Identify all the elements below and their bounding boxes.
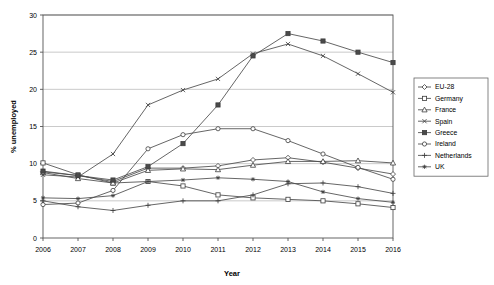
x-tick-label: 2006 [35, 246, 51, 253]
data-point-square-solid [146, 165, 150, 169]
data-point-square-solid [321, 39, 325, 43]
data-point-square-solid [111, 178, 115, 182]
y-tick-label: 10 [29, 160, 37, 167]
x-tick-label: 2014 [315, 246, 331, 253]
x-tick-label: 2015 [350, 246, 366, 253]
data-point-square-solid [216, 103, 220, 107]
legend-item-label: Netherlands [435, 152, 472, 159]
data-point-square-open [391, 205, 395, 209]
data-point-square-solid [41, 169, 45, 173]
unemployment-line-chart: 051015202530 200620072008200920102011201… [0, 0, 494, 285]
x-tick-label: 2008 [105, 246, 121, 253]
data-point-square-open [286, 197, 290, 201]
data-point-square-open [422, 96, 426, 100]
y-tick-label: 0 [33, 235, 37, 242]
data-point-square-solid [251, 54, 255, 58]
x-tick-label: 2013 [280, 246, 296, 253]
data-point-circle-open [146, 147, 150, 151]
x-tick-label: 2016 [385, 246, 401, 253]
data-point-square-open [356, 202, 360, 206]
data-point-circle-open [286, 139, 290, 143]
data-point-star [286, 179, 290, 183]
legend-item-label: Spain [435, 118, 453, 126]
data-point-circle-open [422, 142, 426, 146]
x-tick-label: 2010 [175, 246, 191, 253]
data-point-square-open [41, 161, 45, 165]
data-point-square-solid [356, 50, 360, 54]
y-axis-title: % unemployed [9, 100, 18, 153]
data-point-star [146, 179, 150, 183]
legend-item-label: France [435, 106, 456, 113]
y-tick-label: 15 [29, 123, 37, 130]
data-point-star [356, 197, 360, 201]
data-point-circle-open [216, 127, 220, 131]
y-tick-label: 25 [29, 49, 37, 56]
data-point-square-open [321, 199, 325, 203]
legend-item-label: UK [435, 163, 445, 170]
data-point-star [76, 197, 80, 201]
data-point-circle-open [321, 152, 325, 156]
data-point-star [422, 165, 426, 169]
x-tick-label: 2007 [70, 246, 86, 253]
data-point-circle-open [111, 188, 115, 192]
y-tick-label: 20 [29, 86, 37, 93]
data-point-circle-open [391, 177, 395, 181]
legend-border [414, 78, 488, 176]
legend-item-label: Greece [435, 129, 458, 136]
data-point-star [391, 200, 395, 204]
x-tick-label: 2011 [210, 246, 225, 253]
data-point-star [111, 194, 115, 198]
x-tick-label: 2009 [140, 246, 156, 253]
data-point-star [181, 178, 185, 182]
legend-item-label: Ireland [435, 140, 456, 147]
data-point-star [216, 176, 220, 180]
legend-item-label: Germany [435, 95, 464, 103]
data-point-star [251, 177, 255, 181]
data-point-square-solid [76, 173, 80, 177]
y-tick-label: 30 [29, 12, 37, 19]
x-axis-title: Year [224, 269, 240, 278]
chart-legend: EU-28GermanyFranceSpainGreeceIrelandNeth… [414, 78, 488, 176]
data-point-star [41, 196, 45, 200]
data-point-square-solid [181, 141, 185, 145]
y-tick-label: 5 [33, 197, 37, 204]
data-point-square-open [216, 193, 220, 197]
chart-canvas: 051015202530 200620072008200920102011201… [0, 0, 494, 285]
x-tick-label: 2012 [245, 246, 261, 253]
data-point-circle-open [251, 127, 255, 131]
data-point-square-solid [391, 60, 395, 64]
data-point-circle-open [181, 133, 185, 137]
data-point-square-solid [286, 31, 290, 35]
data-point-square-open [181, 184, 185, 188]
data-point-star [321, 190, 325, 194]
data-point-circle-open [356, 165, 360, 169]
data-point-square-solid [422, 131, 426, 135]
legend-item-label: EU-28 [435, 83, 454, 90]
